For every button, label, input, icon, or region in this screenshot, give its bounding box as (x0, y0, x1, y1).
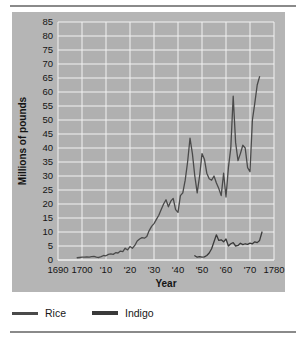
y-axis-tick-label: 25 (42, 184, 53, 195)
chart-panel: 0510152025303540455055606570758085169017… (12, 12, 285, 292)
x-axis-tick-label: '10 (100, 264, 112, 275)
x-axis-title: Year (155, 278, 176, 289)
y-axis-tick-label: 10 (42, 226, 53, 237)
legend-label-indigo: Indigo (125, 307, 154, 319)
y-axis-tick-label: 40 (42, 142, 53, 153)
chart-legend: Rice Indigo (12, 303, 285, 323)
y-axis-tick-label: 5 (48, 240, 53, 251)
legend-swatch-rice (12, 312, 38, 315)
y-axis-tick-label: 70 (42, 58, 53, 69)
legend-item-rice: Rice (12, 307, 66, 319)
chart-figure: 0510152025303540455055606570758085169017… (0, 0, 305, 340)
x-axis-tick-label: '40 (172, 264, 184, 275)
x-axis-tick-label: 1700 (71, 264, 92, 275)
y-axis-tick-label: 15 (42, 212, 53, 223)
y-axis-tick-label: 60 (42, 86, 53, 97)
plot-background (58, 22, 274, 260)
x-axis-tick-label: '70 (244, 264, 256, 275)
x-axis-tick-label: '20 (124, 264, 136, 275)
chart-plot-svg: 0510152025303540455055606570758085169017… (12, 12, 285, 292)
y-axis-title: Millions of pounds (17, 96, 28, 185)
top-divider-rule (10, 5, 296, 7)
x-axis-tick-label: 1780 (263, 264, 284, 275)
y-axis-tick-label: 65 (42, 72, 53, 83)
y-axis-tick-label: 30 (42, 170, 53, 181)
legend-swatch-indigo (92, 311, 118, 315)
y-axis-tick-label: 35 (42, 156, 53, 167)
legend-label-rice: Rice (45, 307, 66, 319)
y-axis-tick-label: 80 (42, 30, 53, 41)
y-axis-tick-label: 20 (42, 198, 53, 209)
legend-item-indigo: Indigo (92, 307, 154, 319)
x-axis-tick-label: '30 (148, 264, 160, 275)
y-axis-tick-label: 55 (42, 100, 53, 111)
bottom-divider-rule (10, 331, 296, 333)
y-axis-tick-label: 85 (42, 16, 53, 27)
y-axis-tick-label: 50 (42, 114, 53, 125)
y-axis-tick-label: 45 (42, 128, 53, 139)
y-axis-tick-label: 75 (42, 44, 53, 55)
x-axis-tick-label: 1690 (47, 264, 68, 275)
x-axis-tick-label: '50 (196, 264, 208, 275)
x-axis-tick-label: '60 (220, 264, 232, 275)
